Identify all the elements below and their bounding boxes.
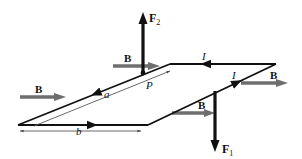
label-field-left: B: [35, 83, 43, 95]
field-arrow-left: [20, 93, 66, 101]
label-field-top: B: [124, 52, 132, 64]
label-side-b: b: [76, 125, 82, 137]
label-side-a: a: [104, 88, 110, 100]
field-arrow-right: [241, 79, 288, 87]
current-loop-diagram: F2 F1 B B B B I I P a b: [0, 0, 302, 159]
label-point-p: P: [145, 79, 153, 91]
label-field-right: B: [270, 69, 278, 81]
field-arrow-top: [113, 62, 160, 70]
label-current-right: I: [231, 69, 237, 81]
label-f1: F1: [222, 142, 233, 158]
label-f2: F2: [149, 11, 160, 27]
label-current-top: I: [201, 50, 207, 62]
label-field-bottom: B: [198, 99, 206, 111]
force-arrow-f1: [211, 91, 220, 152]
